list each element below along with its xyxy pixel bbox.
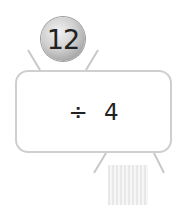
input-ball: 12: [41, 17, 85, 61]
output-answer-box[interactable]: [108, 165, 148, 205]
function-machine-box: ÷ 4: [15, 70, 172, 153]
input-value: 12: [47, 24, 79, 55]
operation-label: ÷ 4: [68, 99, 118, 125]
